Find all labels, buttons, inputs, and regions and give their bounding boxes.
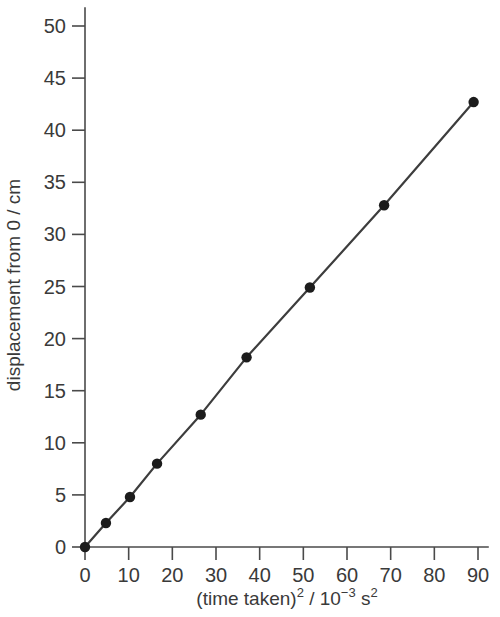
data-point-marker	[305, 282, 315, 292]
data-point-marker	[125, 492, 135, 502]
data-point-marker	[379, 200, 389, 210]
line-chart: 05101520253035404550 0102030405060708090…	[0, 0, 500, 617]
x-tick-label: 40	[249, 564, 271, 586]
chart-figure: 05101520253035404550 0102030405060708090…	[0, 0, 500, 617]
data-point-marker	[101, 518, 111, 528]
data-series	[80, 97, 479, 552]
x-tick-label: 70	[380, 564, 402, 586]
x-tick-label: 50	[292, 564, 314, 586]
series-line	[85, 102, 474, 547]
data-point-marker	[468, 97, 478, 107]
y-tick-label: 0	[55, 536, 66, 558]
x-tick-label: 30	[205, 564, 227, 586]
y-tick-label: 25	[44, 276, 66, 298]
y-tick-label: 45	[44, 67, 66, 89]
y-axis-ticks: 05101520253035404550	[44, 15, 85, 558]
x-tick-label: 60	[336, 564, 358, 586]
y-tick-label: 15	[44, 380, 66, 402]
data-point-marker	[241, 352, 251, 362]
data-point-marker	[152, 458, 162, 468]
x-axis-title: (time taken)2 / 10−3 s2	[196, 585, 377, 609]
data-point-marker	[80, 542, 90, 552]
x-tick-label: 90	[467, 564, 489, 586]
x-axis-ticks: 0102030405060708090	[79, 547, 489, 586]
y-tick-label: 5	[55, 484, 66, 506]
y-tick-label: 50	[44, 15, 66, 37]
y-tick-label: 35	[44, 171, 66, 193]
y-axis-title: displacement from 0 / cm	[3, 179, 24, 391]
y-tick-label: 40	[44, 119, 66, 141]
y-tick-label: 10	[44, 432, 66, 454]
x-tick-label: 10	[118, 564, 140, 586]
x-tick-label: 20	[161, 564, 183, 586]
x-tick-label: 0	[79, 564, 90, 586]
y-tick-label: 20	[44, 328, 66, 350]
data-point-marker	[196, 409, 206, 419]
y-tick-label: 30	[44, 223, 66, 245]
x-tick-label: 80	[423, 564, 445, 586]
axes-group	[85, 8, 488, 547]
